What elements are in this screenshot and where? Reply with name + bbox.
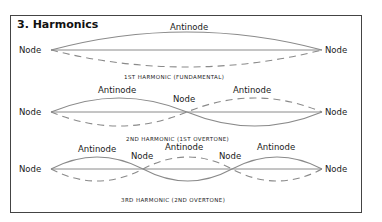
- antinode-label: Antinode: [257, 142, 295, 152]
- harmonic-2: Node Node Node Antinode Antinode 2ND HAR…: [19, 85, 347, 142]
- wave-solid: [51, 32, 322, 50]
- wave-dashed: [51, 50, 322, 67]
- node-label: Node: [131, 151, 153, 161]
- node-label: Node: [325, 107, 347, 117]
- node-label: Node: [19, 45, 41, 55]
- antinode-label: Antinode: [170, 22, 208, 32]
- antinode-label: Antinode: [98, 85, 136, 95]
- node-label: Node: [19, 164, 41, 174]
- harmonics-diagram: Node Node Antinode 1ST HARMONIC (FUNDAME…: [0, 0, 382, 222]
- node-label: Node: [325, 45, 347, 55]
- antinode-label: Antinode: [78, 144, 116, 154]
- harmonic-caption: 1ST HARMONIC (FUNDAMENTAL): [124, 74, 224, 80]
- node-label: Node: [19, 107, 41, 117]
- antinode-label: Antinode: [165, 142, 203, 152]
- node-label: Node: [173, 94, 195, 104]
- harmonic-1: Node Node Antinode 1ST HARMONIC (FUNDAME…: [19, 22, 347, 80]
- harmonic-3: Node Node Node Node Antinode Antinode An…: [19, 142, 347, 203]
- node-label: Node: [325, 164, 347, 174]
- antinode-label: Antinode: [233, 85, 271, 95]
- harmonic-caption: 3RD HARMONIC (2ND OVERTONE): [121, 197, 225, 203]
- node-label: Node: [219, 151, 241, 161]
